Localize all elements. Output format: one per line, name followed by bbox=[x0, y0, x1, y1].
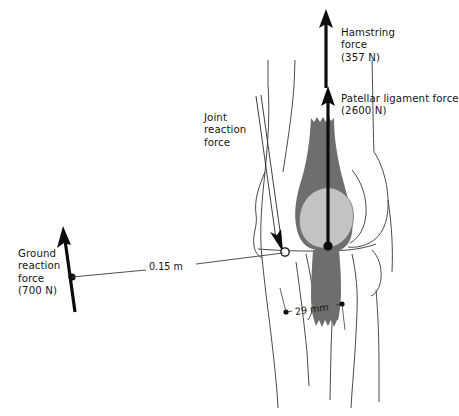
joint-reaction-force-label: Joint reaction force bbox=[204, 112, 246, 149]
patellar-force-application-point bbox=[323, 241, 332, 250]
femoral-condyle-lateral bbox=[348, 152, 388, 247]
shin-anterior-line bbox=[296, 262, 309, 386]
joint-center-point bbox=[281, 248, 289, 256]
fibula-head bbox=[371, 250, 381, 296]
patellar-ligament-force-label: Patellar ligament force (2600 N) bbox=[341, 93, 459, 118]
dimension-label-0-15m: 0.15 m bbox=[149, 261, 183, 272]
hamstring-force-label: Hamstring force (357 N) bbox=[341, 27, 395, 64]
fibula-shaft bbox=[376, 290, 379, 402]
patella bbox=[299, 188, 353, 248]
ground-reaction-force-label: Ground reaction force (700 N) bbox=[18, 248, 60, 298]
thigh-soft-tissue-left bbox=[283, 60, 295, 172]
patellar-ligament-torn-edge bbox=[314, 320, 337, 327]
hamstring-force-arrow bbox=[319, 9, 333, 88]
tibia-lateral-outline bbox=[351, 254, 357, 408]
tibia-medial-outline bbox=[262, 258, 278, 408]
lower-leg-soft-right bbox=[388, 200, 392, 272]
